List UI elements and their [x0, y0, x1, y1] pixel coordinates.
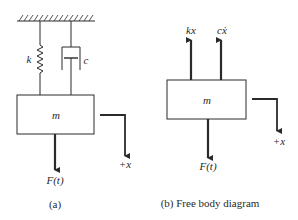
caption-a: (a) — [49, 199, 61, 210]
force-label-a: F(t) — [46, 175, 63, 186]
direction-arrow-a — [100, 115, 125, 156]
diagram-canvas — [0, 0, 298, 220]
force-label-b: F(t) — [199, 161, 216, 172]
direction-arrow-b — [252, 99, 277, 131]
mass-label-a: m — [52, 110, 60, 121]
direction-label-b: +x — [273, 136, 285, 147]
spring-icon — [37, 21, 43, 95]
spring-force-label: kx — [186, 25, 196, 36]
mass-label-b: m — [203, 95, 211, 106]
spring-label: k — [27, 54, 32, 65]
ceiling-hatch-icon — [17, 15, 95, 21]
damper-icon — [62, 21, 80, 95]
damper-force-label: cẋ — [217, 25, 227, 36]
caption-b: (b) Free body diagram — [161, 198, 260, 209]
damper-label: c — [84, 55, 89, 66]
direction-label-a: +x — [119, 159, 131, 170]
